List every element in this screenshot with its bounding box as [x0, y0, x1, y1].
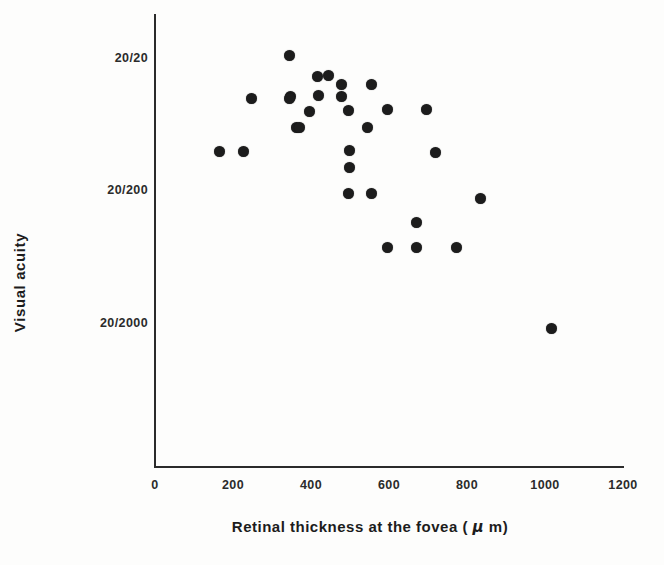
- y-axis-tick-labels: 20/2020/20020/2000: [0, 0, 148, 565]
- data-point: [451, 242, 462, 253]
- data-point: [382, 104, 393, 115]
- x-tick-label-3: 600: [378, 478, 400, 492]
- plot-area: [156, 14, 624, 466]
- data-point: [421, 104, 432, 115]
- data-point: [284, 50, 295, 61]
- data-point: [313, 90, 324, 101]
- data-point: [382, 242, 393, 253]
- data-point: [475, 193, 486, 204]
- data-point: [238, 146, 249, 157]
- x-tick-label-5: 1000: [530, 478, 559, 492]
- data-point: [214, 146, 225, 157]
- data-point: [246, 93, 257, 104]
- y-tick-label-1: 20/200: [107, 183, 148, 197]
- data-point: [546, 323, 557, 334]
- data-point: [343, 188, 354, 199]
- data-point: [284, 93, 295, 104]
- y-tick-label-2: 20/2000: [100, 316, 148, 330]
- data-point: [411, 242, 422, 253]
- y-tick-label-0: 20/20: [115, 51, 148, 65]
- data-point: [304, 106, 315, 117]
- x-tick-label-0: 0: [151, 478, 158, 492]
- x-axis-title: Retinal thickness at the fovea ( μ m): [100, 518, 640, 536]
- data-point: [294, 122, 305, 133]
- data-point: [366, 79, 377, 90]
- data-point: [336, 79, 347, 90]
- scatter-plot-figure: Visual acuity 20/2020/20020/2000 Retinal…: [0, 0, 664, 565]
- data-point: [336, 91, 347, 102]
- x-axis-line: [154, 466, 624, 468]
- x-tick-label-1: 200: [222, 478, 244, 492]
- data-point: [312, 71, 323, 82]
- data-point: [344, 162, 355, 173]
- x-tick-label-4: 800: [456, 478, 478, 492]
- data-point: [344, 145, 355, 156]
- data-point: [430, 147, 441, 158]
- data-point: [362, 122, 373, 133]
- data-point: [366, 188, 377, 199]
- data-point: [323, 70, 334, 81]
- x-tick-label-6: 1200: [608, 478, 637, 492]
- x-tick-label-2: 400: [300, 478, 322, 492]
- data-point: [343, 105, 354, 116]
- data-point: [411, 217, 422, 228]
